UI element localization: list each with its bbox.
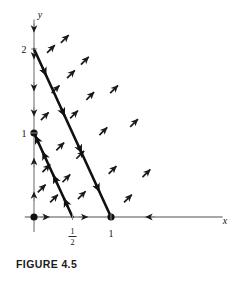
x-tick-label-1: 1 bbox=[109, 228, 114, 239]
field-arrow-3 bbox=[67, 70, 75, 78]
field-arrow-0 bbox=[47, 45, 55, 53]
figure-container: 12112 x y FIGURE 4.5 bbox=[0, 0, 238, 285]
field-arrow-16 bbox=[50, 195, 58, 203]
field-arrow-11 bbox=[56, 143, 64, 151]
equilibrium-dot-0 bbox=[30, 213, 37, 220]
y-tick-label-0: 1 bbox=[22, 128, 27, 139]
field-arrow-17 bbox=[78, 191, 86, 199]
field-arrow-2 bbox=[81, 57, 89, 65]
trajectory-group bbox=[34, 49, 111, 217]
equilibrium-point-group bbox=[30, 129, 114, 220]
figure-caption: FIGURE 4.5 bbox=[16, 258, 77, 270]
field-arrow-5 bbox=[86, 92, 94, 100]
field-arrow-19 bbox=[143, 169, 151, 177]
field-arrow-20 bbox=[124, 195, 132, 203]
y-tick-label-1: 2 bbox=[22, 44, 27, 55]
field-arrow-10 bbox=[99, 127, 107, 135]
field-arrow-8 bbox=[110, 85, 118, 93]
field-arrow-6 bbox=[70, 111, 78, 119]
field-arrow-1 bbox=[61, 35, 69, 43]
x-tick-label-0-numerator: 1 bbox=[71, 227, 75, 236]
phase-plane-plot: 12112 x y bbox=[0, 0, 238, 250]
axes-group bbox=[25, 20, 223, 233]
field-arrow-7 bbox=[41, 112, 49, 120]
y-axis-label: y bbox=[37, 9, 43, 20]
field-arrow-14 bbox=[62, 174, 70, 182]
field-arrow-9 bbox=[130, 119, 138, 127]
field-arrow-15 bbox=[38, 185, 46, 193]
phase-plane-svg: 12112 x y bbox=[0, 0, 238, 250]
x-axis-label: x bbox=[222, 215, 228, 226]
x-tick-label-0-denominator: 2 bbox=[71, 238, 75, 247]
field-arrow-18 bbox=[109, 166, 117, 174]
